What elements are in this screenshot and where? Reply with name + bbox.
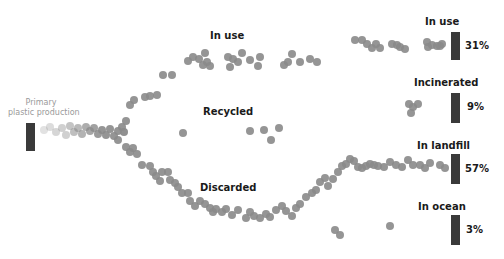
outcome-label-incinerated: Incinerated	[414, 77, 479, 88]
particle-dot	[260, 126, 268, 134]
outcome-label-in-use: In use	[425, 16, 459, 27]
particle-dot	[441, 164, 449, 172]
particle-dot	[426, 159, 434, 167]
particle-dot	[288, 50, 296, 58]
particle-dot	[120, 128, 128, 136]
particle-dot	[386, 222, 394, 230]
particle-dot	[321, 174, 329, 182]
plastic-flow-diagram: Primary plastic production In use Recycl…	[0, 0, 504, 259]
particle-dot	[184, 189, 192, 197]
particle-dot	[114, 136, 122, 144]
particle-dot	[438, 40, 446, 48]
particle-dot	[284, 58, 292, 66]
outcome-label-in-landfill: In landfill	[417, 140, 470, 151]
particle-dot	[267, 136, 275, 144]
particle-dot	[159, 71, 167, 79]
particle-dot	[414, 100, 422, 108]
particle-dot	[226, 63, 234, 71]
particle-dot	[238, 49, 246, 57]
outcome-percent-in-landfill: 57%	[465, 163, 489, 174]
particle-dot	[130, 96, 138, 104]
particle-dot	[164, 168, 172, 176]
particle-dot	[313, 58, 321, 66]
particle-dot	[153, 91, 161, 99]
source-label: Primary plastic production	[8, 98, 74, 118]
particle-dot	[156, 177, 164, 185]
particle-dot	[288, 212, 296, 220]
outcome-percent-incinerated: 9%	[467, 101, 484, 112]
particle-dot	[201, 49, 209, 57]
particle-dot	[246, 56, 254, 64]
particle-dot	[179, 129, 187, 137]
path-label-in-use: In use	[210, 30, 244, 41]
particle-dot	[398, 163, 406, 171]
source-label-line1: Primary	[8, 98, 74, 108]
particle-dot	[275, 124, 283, 132]
particle-dot	[254, 62, 262, 70]
particle-dot	[78, 130, 86, 138]
particle-dot	[312, 186, 320, 194]
particle-dot	[256, 53, 264, 61]
source-bar	[26, 123, 35, 151]
particle-dot	[133, 150, 141, 158]
particle-dot	[138, 161, 146, 169]
path-label-discarded: Discarded	[200, 182, 256, 193]
particle-dot	[329, 175, 337, 183]
particle-dot	[296, 200, 304, 208]
outcome-bar-incinerated	[451, 93, 460, 123]
source-label-line2: plastic production	[8, 108, 74, 118]
outcome-bar-in-landfill	[451, 154, 460, 184]
particle-dot	[401, 45, 409, 53]
particle-dot	[234, 206, 242, 214]
outcome-percent-in-ocean: 3%	[466, 224, 483, 235]
outcome-bar-in-use	[451, 32, 460, 60]
particle-dot	[234, 58, 242, 66]
particle-dot	[376, 44, 384, 52]
outcome-bar-in-ocean	[451, 215, 460, 245]
outcome-label-in-ocean: In ocean	[418, 201, 466, 212]
path-label-recycled: Recycled	[203, 106, 253, 117]
particle-dot	[336, 231, 344, 239]
particle-dot	[62, 131, 70, 139]
particle-dot	[266, 213, 274, 221]
outcome-percent-in-use: 31%	[465, 40, 489, 51]
particle-dot	[122, 117, 130, 125]
particle-dot	[407, 109, 415, 117]
particle-dot	[296, 58, 304, 66]
particle-dot	[168, 71, 176, 79]
particle-dot	[206, 62, 214, 70]
particle-dot	[324, 182, 332, 190]
particle-dot	[246, 127, 254, 135]
